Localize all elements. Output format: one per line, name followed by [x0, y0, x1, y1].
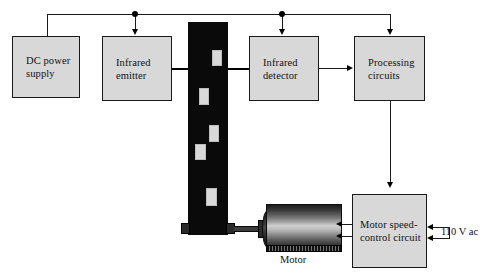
arrowhead-bus-to-infrared-detector	[279, 29, 285, 35]
block-dc-power-supply[interactable]: DC power supply	[12, 36, 80, 98]
arrowhead-ac-mains-lead-1	[427, 224, 433, 230]
block-processing-circuits-label: Processing circuits	[368, 56, 415, 82]
wire-bus-to-dc-power-supply	[47, 14, 48, 37]
block-processing-circuits[interactable]: Processing circuits	[354, 36, 425, 101]
block-infrared-emitter-label: Infrared emitter	[116, 56, 151, 82]
wire-speed-control-to-motor-lead-1	[342, 224, 352, 225]
arrowhead-speed-control-to-motor-lead-1	[336, 221, 342, 227]
belt-roller-left	[181, 223, 190, 234]
arrowhead-bus-to-infrared-emitter	[132, 29, 138, 35]
block-infrared-emitter[interactable]: Infrared emitter	[102, 36, 172, 101]
junction-dot-detector	[279, 11, 285, 17]
motor-caption: Motor	[280, 254, 306, 265]
wire-speed-control-to-motor-lead-2	[342, 236, 352, 237]
belt-marker	[206, 188, 217, 206]
wire-detector-to-processing	[319, 68, 347, 69]
arrowhead-processing-to-speed-control	[387, 182, 393, 188]
belt-marker	[212, 50, 222, 66]
block-motor-speed-control-circuit[interactable]: Motor speed- control circuit	[352, 194, 427, 268]
junction-dot-emitter	[132, 11, 138, 17]
belt-marker	[209, 125, 219, 142]
arrowhead-speed-control-to-motor-lead-2	[336, 233, 342, 239]
belt-marker	[195, 144, 206, 160]
ac-supply-label: 110 V ac	[441, 226, 478, 237]
belt-marker	[199, 88, 209, 105]
block-dc-power-supply-label: DC power supply	[26, 54, 70, 80]
block-infrared-detector-label: Infrared detector	[263, 56, 298, 82]
motor-vent-band	[266, 245, 342, 252]
arrowhead-detector-to-processing	[347, 65, 353, 71]
wire-ac-mains-lead-2	[433, 238, 449, 239]
perforated-encoder-belt	[188, 22, 228, 235]
arrowhead-ac-mains-lead-2	[427, 235, 433, 241]
ir-beam-belt-to-detector	[226, 68, 249, 70]
power-bus-horizontal	[47, 14, 391, 15]
wire-processing-to-speed-control	[390, 101, 391, 182]
wire-bus-to-processing-circuits	[390, 14, 391, 30]
block-infrared-detector[interactable]: Infrared detector	[249, 36, 319, 101]
arrowhead-bus-to-processing-circuits	[387, 29, 393, 35]
block-motor-speed-control-circuit-label: Motor speed- control circuit	[360, 218, 421, 244]
diagram-canvas: DC power supply Infrared emitter Infrare…	[0, 0, 486, 276]
